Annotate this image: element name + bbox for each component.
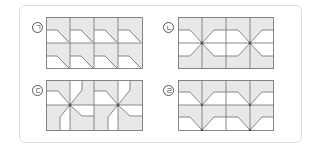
pattern-a bbox=[46, 17, 143, 69]
panel-label-a: ㄱ bbox=[32, 22, 43, 33]
panel-label-c: ㄷ bbox=[32, 85, 43, 96]
panel-label-d: ㄹ bbox=[163, 85, 174, 96]
pattern-b bbox=[178, 17, 274, 69]
panel-label-b: ㄴ bbox=[163, 22, 174, 33]
pattern-d bbox=[178, 80, 274, 131]
pattern-c bbox=[46, 80, 143, 131]
